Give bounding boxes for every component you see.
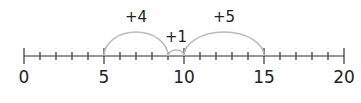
jump-labels: +4 +1 +5	[125, 8, 235, 46]
tick-label-5: 5	[99, 67, 110, 87]
tick-labels: 0 5 10 15 20	[19, 67, 355, 87]
jump-arc	[184, 32, 264, 56]
jump-label-plus-1: +1	[165, 28, 187, 46]
number-line-canvas: 0 5 10 15 20 +4 +1 +5	[0, 0, 361, 103]
tick-label-10: 10	[173, 67, 195, 87]
tick-label-15: 15	[253, 67, 275, 87]
tick-label-20: 20	[333, 67, 355, 87]
jump-arc	[168, 50, 184, 56]
jump-label-plus-4: +4	[125, 8, 147, 26]
jump-label-plus-5: +5	[213, 8, 235, 26]
tick-label-0: 0	[19, 67, 30, 87]
number-line-diagram: 0 5 10 15 20 +4 +1 +5	[0, 0, 361, 103]
